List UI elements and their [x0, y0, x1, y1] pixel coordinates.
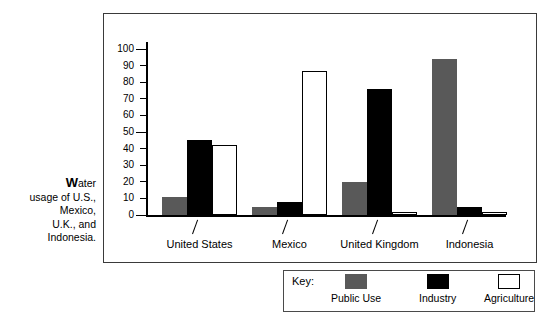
plot-area: 0102030405060708090100 United StatesMexi… [146, 49, 524, 215]
legend-swatch-agri [498, 274, 520, 289]
y-tick-label-70: 70 [104, 94, 134, 104]
y-tick-50 [136, 132, 146, 134]
y-tick-label-80: 80 [104, 77, 134, 87]
legend-title: Key: [292, 275, 314, 287]
y-tick-label-100: 100 [104, 44, 134, 54]
y-tick-label-30: 30 [104, 160, 134, 170]
bar-group [162, 49, 237, 215]
legend-swatch-public [345, 274, 367, 289]
legend-item-industry: Industry [419, 274, 456, 305]
y-tick-label-20: 20 [104, 177, 134, 187]
legend-item-agri: Agriculture [484, 274, 534, 305]
x-axis-line [146, 215, 506, 217]
y-tick-10 [140, 198, 146, 199]
bar-industry [457, 207, 482, 215]
bar-industry [277, 202, 302, 215]
caption-line-2: Mexico, [8, 204, 96, 218]
category-leader-line [192, 220, 198, 234]
bar-industry [187, 140, 212, 215]
legend-label-public: Public Use [331, 292, 381, 305]
bar-public [162, 197, 187, 215]
y-tick-label-50: 50 [104, 127, 134, 137]
y-tick-30 [140, 165, 146, 166]
y-axis-line [146, 42, 148, 215]
legend-box: Key: Public UseIndustryAgriculture [283, 270, 535, 312]
y-tick-80 [140, 82, 146, 83]
bar-public [342, 182, 367, 215]
caption-line-3: U.K., and [8, 218, 96, 232]
bar-agri [482, 212, 507, 215]
bar-agri [392, 212, 417, 215]
bar-agri [302, 71, 327, 215]
legend-item-public: Public Use [331, 274, 381, 305]
chart-caption: Water usage of U.S., Mexico, U.K., and I… [8, 176, 96, 245]
y-tick-40 [140, 148, 146, 149]
category-leader-line [462, 220, 468, 234]
bar-public [252, 207, 277, 215]
bar-agri [212, 145, 237, 215]
bar-group [342, 49, 417, 215]
caption-line-1: usage of U.S., [8, 191, 96, 205]
bar-group [252, 49, 327, 215]
caption-dropcap: W [66, 175, 78, 190]
y-tick-label-0: 0 [104, 210, 134, 220]
legend-label-agri: Agriculture [484, 292, 534, 305]
bar-industry [367, 89, 392, 215]
bar-group [432, 49, 507, 215]
y-tick-100 [136, 49, 146, 51]
y-tick-label-60: 60 [104, 110, 134, 120]
y-tick-label-10: 10 [104, 193, 134, 203]
category-leader-line [372, 220, 378, 234]
caption-first-line: Water [8, 176, 96, 191]
y-tick-70 [140, 98, 146, 99]
y-tick-90 [140, 65, 146, 66]
bar-public [432, 59, 457, 215]
category-leader-line [282, 220, 288, 234]
y-tick-label-40: 40 [104, 144, 134, 154]
y-tick-60 [140, 115, 146, 116]
y-tick-20 [140, 181, 146, 182]
caption-first-line-rest: ater [78, 177, 96, 189]
category-label-indonesia: Indonesia [410, 238, 529, 250]
y-tick-label-90: 90 [104, 61, 134, 71]
y-axis-labels: 0102030405060708090100 [100, 49, 134, 215]
legend-swatch-industry [427, 274, 449, 289]
chart-frame: 0102030405060708090100 United StatesMexi… [103, 13, 537, 263]
legend-label-industry: Industry [419, 292, 456, 305]
caption-line-4: Indonesia. [8, 231, 96, 245]
y-tick-0 [136, 215, 146, 217]
